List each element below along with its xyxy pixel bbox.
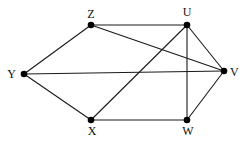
node-label-u: U [183,5,192,19]
node-label-x: X [88,124,97,138]
graph-diagram: ZUYVXW [0,0,245,142]
node-u [184,22,191,29]
edge-z-y [24,25,91,74]
edge-y-x [24,74,91,120]
node-y [21,71,28,78]
node-w [184,117,191,124]
node-z [88,22,95,29]
edge-y-v [24,71,224,74]
node-label-y: Y [7,67,16,81]
node-label-w: W [182,124,194,138]
node-x [88,117,95,124]
graph-edges [24,25,224,120]
node-v [221,68,228,75]
edge-w-v [187,71,224,120]
node-label-z: Z [87,7,94,21]
edge-z-v [91,25,224,71]
node-label-v: V [230,65,239,79]
